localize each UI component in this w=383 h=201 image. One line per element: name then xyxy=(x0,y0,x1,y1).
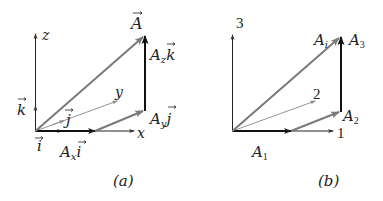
z-axis-label: z xyxy=(41,27,50,43)
svg-text:k: k xyxy=(17,101,26,119)
j-unit-label: j xyxy=(63,109,73,130)
panel-a-caption: (a) xyxy=(113,172,134,190)
axis-1-label: 1 xyxy=(337,125,345,141)
svg-text:Ayj: Ayj xyxy=(148,110,172,129)
a2-label: A2 xyxy=(341,107,359,126)
k-unit-label: k xyxy=(17,98,26,120)
svg-text:Axi: Axi xyxy=(58,143,81,162)
resultant-vector-ai xyxy=(233,38,340,131)
a3-label: A3 xyxy=(347,31,365,50)
a1-label: A1 xyxy=(250,143,268,162)
y-axis-label: y xyxy=(114,84,124,100)
axis-3-label: 3 xyxy=(236,15,244,31)
panel-b: 3 2 1 Ai A3 A2 A1 (b) xyxy=(233,15,365,190)
a2-component-vector xyxy=(291,112,339,131)
panel-b-caption: (b) xyxy=(318,172,339,190)
az-k-label: Azk xyxy=(148,43,175,66)
ax-i-label: Axi xyxy=(58,141,86,163)
svg-text:A: A xyxy=(129,14,143,33)
j-unit-vector xyxy=(52,121,64,126)
i-unit-label: i xyxy=(35,137,43,156)
ay-j-label: Ayj xyxy=(148,106,176,130)
x-axis-label: x xyxy=(137,125,145,141)
vector-a-label: A xyxy=(129,12,143,34)
ai-label: Ai xyxy=(312,31,328,50)
vec-arrow-icon xyxy=(168,106,176,109)
svg-text:Azk: Azk xyxy=(148,46,175,65)
ay-j-component-vector xyxy=(95,111,143,131)
axis-2-label: 2 xyxy=(313,86,321,102)
panel-a: z y x k j i A Azk Ayj xyxy=(17,12,176,191)
vector-decomposition-figure: z y x k j i A Azk Ayj xyxy=(0,0,383,201)
